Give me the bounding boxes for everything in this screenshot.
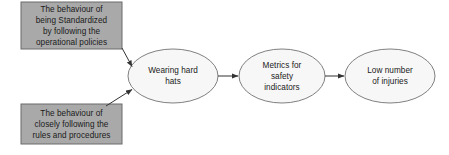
box-being-standardized-shape [21, 2, 122, 49]
arrow-standardization-to-hard-hats [122, 48, 132, 67]
ellipse-metrics-for-safety-indicators-shape [239, 49, 325, 103]
diagram-canvas: The behaviour of being Standardized by f… [0, 0, 449, 155]
ellipse-low-number-of-injuries-shape [345, 49, 435, 103]
ellipse-wearing-hard-hats-shape [128, 49, 218, 103]
diagram-shapes [0, 0, 449, 155]
box-closely-following-rules-shape [21, 104, 122, 144]
